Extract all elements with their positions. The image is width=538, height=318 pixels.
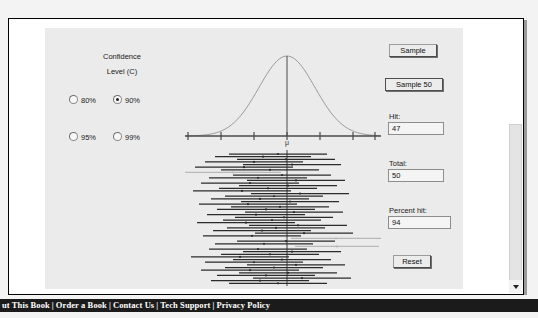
percent-hit-label: Percent hit:: [389, 206, 427, 215]
radio-dot-80[interactable]: [69, 95, 78, 104]
interval-center-dot-8: [281, 174, 283, 176]
interval-center-dot-47: [301, 277, 303, 279]
radio-dot-95[interactable]: [69, 132, 78, 141]
footer-area: ut This Book|Order a Book|Contact Us|Tec…: [0, 295, 538, 318]
interval-center-dot-27: [297, 224, 299, 226]
interval-center-dot-21: [265, 208, 267, 210]
confidence-title-line1: Confidence: [67, 49, 177, 64]
footer-link-contact-us[interactable]: Contact Us: [113, 300, 154, 310]
interval-center-dot-32: [335, 237, 337, 239]
interval-center-dot-9: [257, 177, 259, 179]
mu-axis-label: μ: [285, 139, 289, 146]
radio-option-90[interactable]: 90%: [113, 95, 140, 105]
screen-root: Confidence Level (C) 80% 90% 95% 99% μ S…: [0, 0, 538, 318]
radio-label-90: 90%: [125, 96, 140, 105]
interval-center-dot-41: [253, 261, 255, 263]
confidence-interval-rows: [185, 153, 381, 285]
radio-label-80: 80%: [81, 96, 96, 105]
interval-center-dot-22: [293, 211, 295, 213]
interval-center-dot-31: [251, 235, 253, 237]
radio-label-95: 95%: [81, 133, 96, 142]
interval-center-dot-16: [273, 195, 275, 197]
hit-label: Hit:: [389, 112, 400, 121]
interval-center-dot-34: [263, 243, 265, 245]
interval-center-dot-35: [336, 245, 338, 247]
interval-center-dot-43: [273, 266, 275, 268]
radio-option-95[interactable]: 95%: [69, 132, 96, 142]
confidence-interval-applet: Confidence Level (C) 80% 90% 95% 99% μ S…: [45, 28, 463, 289]
radio-label-99: 99%: [125, 133, 140, 142]
footer-separator: |: [52, 300, 54, 310]
interval-center-dot-14: [241, 190, 243, 192]
interval-center-dot-37: [291, 251, 293, 253]
interval-center-dot-40: [281, 259, 283, 261]
interval-center-dot-15: [299, 193, 301, 195]
footer-separator: |: [156, 300, 158, 310]
interval-center-dot-1: [262, 156, 264, 158]
interval-center-dot-44: [249, 269, 251, 271]
sample-50-button[interactable]: Sample 50: [385, 78, 443, 91]
interval-center-dot-17: [259, 198, 261, 200]
footer-link-list: ut This Book|Order a Book|Contact Us|Tec…: [2, 300, 270, 310]
hit-value[interactable]: 47: [388, 122, 444, 135]
interval-center-dot-28: [275, 227, 277, 229]
sample-button[interactable]: Sample: [389, 44, 437, 57]
interval-center-dot-38: [269, 253, 271, 255]
interval-center-dot-24: [283, 216, 285, 218]
total-label: Total:: [389, 159, 407, 168]
scrollbar-thumb[interactable]: [509, 124, 522, 292]
footer-nav-bar: ut This Book|Order a Book|Contact Us|Tec…: [0, 299, 538, 312]
radio-dot-90[interactable]: [113, 95, 122, 104]
footer-link-ut-this-book[interactable]: ut This Book: [2, 300, 50, 310]
interval-center-dot-19: [247, 203, 249, 205]
interval-center-dot-29: [261, 229, 263, 231]
confidence-level-title: Confidence Level (C): [67, 49, 177, 79]
footer-separator: |: [213, 300, 215, 310]
interval-center-dot-25: [271, 219, 273, 221]
radio-option-80[interactable]: 80%: [69, 95, 96, 105]
interval-center-dot-0: [277, 153, 279, 155]
interval-center-dot-33: [285, 240, 287, 242]
interval-center-dot-48: [259, 280, 261, 282]
confidence-title-line2: Level (C): [67, 64, 177, 79]
interval-center-dot-30: [303, 232, 305, 234]
interval-center-dot-5: [243, 166, 245, 168]
browser-page: Confidence Level (C) 80% 90% 95% 99% μ S…: [8, 18, 524, 295]
interval-center-dot-45: [287, 272, 289, 274]
interval-center-dot-12: [287, 185, 289, 187]
interval-center-dot-4: [291, 163, 293, 165]
interval-center-dot-26: [245, 222, 247, 224]
interval-center-dot-3: [253, 161, 255, 163]
interval-center-dot-46: [265, 274, 267, 276]
scrollbar-track[interactable]: [509, 20, 522, 280]
interval-center-dot-49: [277, 282, 279, 284]
interval-center-dot-10: [295, 179, 297, 181]
interval-center-dot-13: [267, 187, 269, 189]
total-value[interactable]: 50: [388, 169, 444, 182]
interval-center-dot-36: [257, 248, 259, 250]
vertical-scrollbar[interactable]: [509, 20, 522, 293]
interval-center-dot-6: [269, 169, 271, 171]
interval-center-dot-23: [255, 214, 257, 216]
radio-option-99[interactable]: 99%: [113, 132, 140, 142]
reset-button[interactable]: Reset: [393, 255, 431, 268]
graph-canvas: [185, 38, 381, 286]
footer-separator: |: [109, 300, 111, 310]
percent-hit-value[interactable]: 94: [388, 216, 451, 229]
interval-center-dot-2: [285, 158, 287, 160]
footer-link-privacy-policy[interactable]: Privacy Policy: [217, 300, 271, 310]
interval-center-dot-11: [249, 182, 251, 184]
interval-center-dot-7: [232, 171, 234, 173]
confidence-interval-graph: μ: [185, 38, 381, 286]
normal-curve: [185, 56, 380, 136]
radio-dot-99[interactable]: [113, 132, 122, 141]
interval-center-dot-42: [295, 264, 297, 266]
interval-center-dot-20: [279, 206, 281, 208]
scroll-down-arrow-icon[interactable]: [509, 280, 522, 293]
footer-link-tech-support[interactable]: Tech Support: [160, 300, 210, 310]
interval-center-dot-39: [239, 256, 241, 258]
interval-center-dot-18: [289, 200, 291, 202]
footer-link-order-a-book[interactable]: Order a Book: [56, 300, 107, 310]
